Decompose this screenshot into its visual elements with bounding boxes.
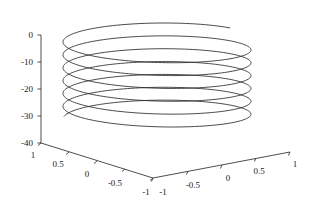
x-axis-tick-labels: -1-0.500.51 — [159, 159, 297, 197]
tick-mark — [94, 161, 97, 164]
tick-label: -1 — [159, 187, 167, 197]
helix-curve — [63, 23, 251, 127]
tick-label: 0.5 — [253, 166, 265, 176]
tick-label: 0.5 — [52, 159, 64, 169]
tick-label: -0.5 — [108, 178, 123, 188]
tick-label: 0 — [29, 30, 34, 40]
x-axis-tickmarks — [152, 152, 291, 182]
plot-canvas: 0-10-20-30-40 10.50-0.5-1 -1-0.500.51 — [0, 0, 312, 215]
z-axis-tickmarks — [38, 35, 42, 143]
tick-label: -20 — [21, 84, 33, 94]
y-axis-tick-labels: 10.50-0.5-1 — [31, 150, 150, 197]
tick-label: -10 — [21, 57, 33, 67]
helix-series-group — [63, 23, 251, 127]
tick-label: 0 — [226, 173, 231, 183]
axes-group — [38, 35, 291, 182]
tick-label: 1 — [31, 150, 36, 160]
tick-mark — [122, 169, 125, 172]
tick-label: -40 — [21, 138, 33, 148]
tick-label: 1 — [293, 159, 298, 169]
z-axis-tick-labels: 0-10-20-30-40 — [21, 30, 34, 148]
tick-label: -30 — [21, 111, 33, 121]
x-axis-line — [153, 152, 290, 178]
tick-label: -0.5 — [186, 180, 201, 190]
plot-figure: 0-10-20-30-40 10.50-0.5-1 -1-0.500.51 — [0, 0, 312, 215]
tick-label: -1 — [142, 187, 150, 197]
tick-mark — [66, 152, 69, 155]
tick-label: 0 — [85, 169, 90, 179]
